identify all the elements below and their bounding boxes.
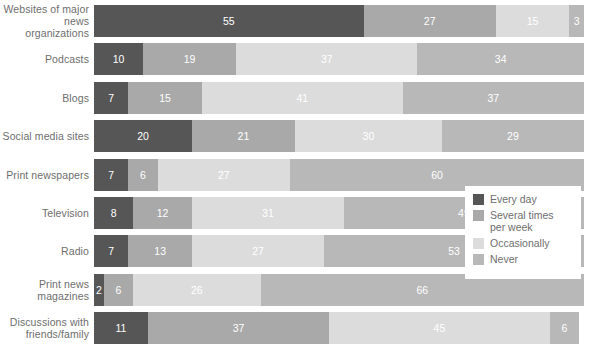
bar-segment-every-day: 11 <box>94 312 148 344</box>
bar-segment-value: 29 <box>507 130 519 142</box>
bar-segment-value: 10 <box>113 53 125 65</box>
legend-label: Several times per week <box>490 209 554 233</box>
bar-segment-occasionally: 27 <box>192 235 324 267</box>
row-label: Print newspapers <box>0 169 94 181</box>
bar-segment-several-times-per-week: 27 <box>364 5 496 37</box>
stacked-bar: 7154137 <box>94 82 584 114</box>
bar-segment-several-times-per-week: 15 <box>128 82 202 114</box>
stacked-bar: 5527153 <box>94 5 584 37</box>
legend-swatch-icon <box>473 210 484 221</box>
bar-segment-value: 37 <box>487 92 499 104</box>
bar-segment-value: 45 <box>434 322 446 334</box>
bar-segment-several-times-per-week: 37 <box>148 312 329 344</box>
legend-swatch-icon <box>473 254 484 265</box>
stacked-bar: 1137456 <box>94 312 584 344</box>
legend-swatch-icon <box>473 238 484 249</box>
bar-segment-occasionally: 26 <box>133 274 260 306</box>
bar-segment-never: 34 <box>417 43 584 75</box>
chart-rows: Websites of major news organizations5527… <box>0 0 591 348</box>
bar-segment-every-day: 7 <box>94 235 128 267</box>
stacked-bar: 10193734 <box>94 43 584 75</box>
chart-row-discussions-with-friends-family: Discussions with friends/family1137456 <box>0 312 591 344</box>
bar-segment-value: 19 <box>184 53 196 65</box>
bar-segment-value: 27 <box>424 15 436 27</box>
row-label: Television <box>0 207 94 219</box>
bar-segment-every-day: 10 <box>94 43 143 75</box>
legend-item-every-day[interactable]: Every day <box>473 193 575 205</box>
bar-segment-several-times-per-week: 19 <box>143 43 236 75</box>
bar-segment-occasionally: 45 <box>329 312 550 344</box>
bar-segment-every-day: 20 <box>94 120 192 152</box>
chart-row-podcasts: Podcasts10193734 <box>0 43 591 75</box>
row-label: Websites of major news organizations <box>0 3 94 39</box>
bar-segment-value: 60 <box>431 169 443 181</box>
chart-legend: Every daySeveral times per weekOccasiona… <box>465 186 581 279</box>
bar-segment-value: 37 <box>233 322 245 334</box>
bar-segment-value: 6 <box>140 169 146 181</box>
bar-segment-occasionally: 37 <box>236 43 417 75</box>
bar-segment-occasionally: 15 <box>496 5 570 37</box>
bar-segment-value: 7 <box>108 245 114 257</box>
bar-segment-value: 7 <box>108 92 114 104</box>
bar-segment-value: 15 <box>527 15 539 27</box>
bar-segment-value: 26 <box>191 284 203 296</box>
bar-segment-value: 2 <box>96 284 102 296</box>
bar-segment-occasionally: 31 <box>192 197 344 229</box>
bar-segment-value: 27 <box>218 169 230 181</box>
bar-segment-value: 11 <box>115 322 126 334</box>
row-label: Blogs <box>0 92 94 104</box>
legend-item-never[interactable]: Never <box>473 253 575 265</box>
legend-label: Never <box>490 253 518 265</box>
chart-row-blogs: Blogs7154137 <box>0 82 591 114</box>
bar-segment-value: 30 <box>363 130 375 142</box>
bar-segment-never: 6 <box>550 312 579 344</box>
bar-segment-value: 31 <box>262 207 274 219</box>
bar-segment-every-day: 2 <box>94 274 104 306</box>
bar-segment-every-day: 8 <box>94 197 133 229</box>
bar-segment-several-times-per-week: 6 <box>104 274 133 306</box>
bar-segment-every-day: 7 <box>94 82 128 114</box>
bar-segment-value: 7 <box>108 169 114 181</box>
bar-segment-value: 21 <box>238 130 250 142</box>
row-label: Podcasts <box>0 53 94 65</box>
bar-segment-value: 20 <box>137 130 149 142</box>
bar-segment-value: 66 <box>416 284 428 296</box>
legend-label: Occasionally <box>490 237 550 249</box>
bar-segment-several-times-per-week: 21 <box>192 120 295 152</box>
bar-segment-never: 3 <box>569 5 584 37</box>
bar-segment-value: 55 <box>223 15 235 27</box>
bar-segment-value: 41 <box>296 92 308 104</box>
legend-item-occasionally[interactable]: Occasionally <box>473 237 575 249</box>
row-label: Print news magazines <box>0 278 94 302</box>
bar-segment-value: 15 <box>159 92 171 104</box>
bar-segment-value: 27 <box>252 245 264 257</box>
bar-segment-value: 8 <box>111 207 117 219</box>
bar-segment-never: 29 <box>442 120 584 152</box>
row-label: Discussions with friends/family <box>0 316 94 340</box>
bar-segment-several-times-per-week: 13 <box>128 235 192 267</box>
bar-segment-occasionally: 30 <box>295 120 442 152</box>
bar-segment-occasionally: 41 <box>202 82 403 114</box>
bar-segment-every-day: 7 <box>94 159 128 191</box>
bar-segment-value: 6 <box>116 284 122 296</box>
bar-segment-value: 13 <box>154 245 166 257</box>
legend-label: Every day <box>490 193 537 205</box>
bar-segment-several-times-per-week: 6 <box>128 159 157 191</box>
bar-segment-value: 34 <box>495 53 507 65</box>
bar-segment-every-day: 55 <box>94 5 364 37</box>
bar-segment-occasionally: 27 <box>158 159 290 191</box>
bar-segment-value: 6 <box>561 322 567 334</box>
bar-segment-never: 37 <box>403 82 584 114</box>
chart-row-social-media-sites: Social media sites20213029 <box>0 120 591 152</box>
stacked-bar-chart: Websites of major news organizations5527… <box>0 0 591 348</box>
bar-segment-value: 3 <box>574 15 580 27</box>
legend-swatch-icon <box>473 194 484 205</box>
bar-segment-value: 12 <box>157 207 169 219</box>
row-label: Social media sites <box>0 130 94 142</box>
stacked-bar: 20213029 <box>94 120 584 152</box>
bar-segment-value: 37 <box>321 53 333 65</box>
row-label: Radio <box>0 245 94 257</box>
legend-item-several-times-per-week[interactable]: Several times per week <box>473 209 575 233</box>
bar-segment-value: 53 <box>448 245 460 257</box>
chart-row-websites-of-major-news-organizations: Websites of major news organizations5527… <box>0 5 591 37</box>
